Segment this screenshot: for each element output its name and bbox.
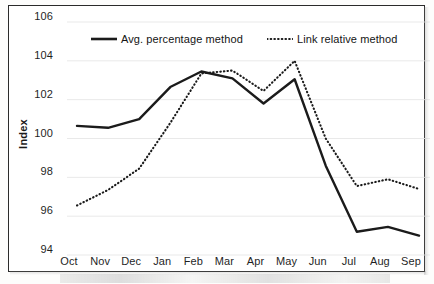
x-tick-label: Jan: [145, 255, 179, 267]
x-tick-label: Dec: [114, 255, 148, 267]
y-tick-label: 94: [19, 244, 53, 255]
legend-item-avg-percentage-method: Avg. percentage method: [91, 30, 243, 48]
scan-edge-shadow-right: [424, 7, 429, 275]
x-tick-label: May: [270, 255, 304, 267]
x-tick-label: Oct: [52, 255, 86, 267]
y-tick-label: 106: [19, 11, 53, 22]
chart-legend: Avg. percentage method Link relative met…: [79, 30, 409, 48]
y-tick-label: 100: [19, 128, 53, 139]
y-tick-label: 96: [19, 205, 53, 216]
legend-label-link-relative-method: Link relative method: [297, 33, 397, 45]
y-tick-label: 102: [19, 89, 53, 100]
x-tick-label: Mar: [207, 255, 241, 267]
x-tick-label: Apr: [239, 255, 273, 267]
x-tick-label: Sep: [394, 255, 428, 267]
legend-item-link-relative-method: Link relative method: [267, 30, 397, 48]
legend-solid-line-icon: [91, 34, 117, 44]
series-link-relative-method-line: [77, 61, 419, 206]
x-tick-label: Nov: [83, 255, 117, 267]
legend-dotted-line-icon: [267, 34, 293, 44]
chart-frame: Index 106104102100989694 OctNovDecJanFeb…: [8, 5, 425, 272]
x-tick-label: Jul: [332, 255, 366, 267]
x-tick-label: Jun: [301, 255, 335, 267]
x-tick-label: Feb: [176, 255, 210, 267]
y-tick-label: 98: [19, 166, 53, 177]
y-tick-label: 104: [19, 50, 53, 61]
legend-label-avg-percentage-method: Avg. percentage method: [121, 33, 243, 45]
series-avg-percentage-method-line: [77, 72, 419, 236]
x-tick-label: Aug: [363, 255, 397, 267]
scan-smudge-artifact: [60, 274, 390, 283]
gridlines: [67, 22, 430, 255]
